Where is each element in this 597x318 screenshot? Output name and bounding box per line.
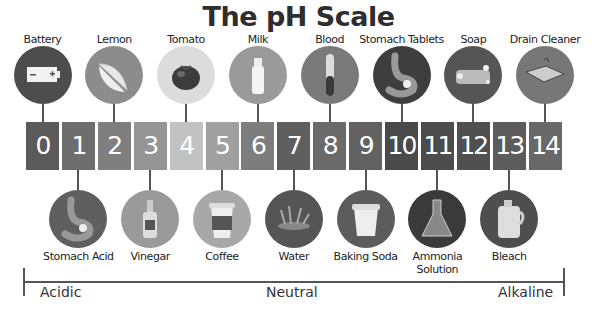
axis-label-neutral: Neutral bbox=[266, 284, 318, 300]
ph-level-13: 13 bbox=[493, 122, 526, 170]
ph-level-4: 4 bbox=[170, 122, 203, 170]
connector-line bbox=[436, 170, 438, 190]
coffee-cup-icon bbox=[193, 190, 251, 248]
example-label-line2: Solution bbox=[382, 263, 492, 276]
axis-right-tick bbox=[563, 268, 565, 296]
connector-line bbox=[293, 170, 295, 190]
connector-line bbox=[77, 170, 79, 190]
connector-line bbox=[329, 104, 331, 122]
ph-level-5: 5 bbox=[206, 122, 239, 170]
ph-level-11: 11 bbox=[421, 122, 454, 170]
connector-line bbox=[257, 104, 259, 122]
vinegar-bottle-icon bbox=[121, 190, 179, 248]
connector-line bbox=[365, 170, 367, 190]
connector-line bbox=[401, 104, 403, 122]
connector-line bbox=[472, 104, 474, 122]
connector-line bbox=[113, 104, 115, 122]
axis-label-alkaline: Alkaline bbox=[498, 284, 553, 300]
ph-level-9: 9 bbox=[349, 122, 382, 170]
connector-line bbox=[149, 170, 151, 190]
water-splash-icon bbox=[265, 190, 323, 248]
ph-level-2: 2 bbox=[98, 122, 131, 170]
page-title: The pH Scale bbox=[0, 0, 597, 34]
baking-soda-tub-icon bbox=[337, 190, 395, 248]
connector-line bbox=[185, 104, 187, 122]
bleach-jug-icon bbox=[480, 190, 538, 248]
axis-left-tick bbox=[23, 268, 25, 296]
ph-level-10: 10 bbox=[385, 122, 418, 170]
axis-label-acidic: Acidic bbox=[40, 284, 81, 300]
ph-level-8: 8 bbox=[313, 122, 346, 170]
example-label: Bleach bbox=[454, 250, 564, 263]
ph-level-0: 0 bbox=[26, 122, 59, 170]
connector-line bbox=[544, 104, 546, 122]
battery-icon bbox=[14, 46, 72, 104]
lemon-icon bbox=[85, 46, 143, 104]
ph-level-14: 14 bbox=[529, 122, 562, 170]
ph-level-12: 12 bbox=[457, 122, 490, 170]
stomach-icon bbox=[49, 190, 107, 248]
flask-icon bbox=[408, 190, 466, 248]
ph-level-6: 6 bbox=[241, 122, 274, 170]
ph-level-1: 1 bbox=[62, 122, 95, 170]
connector-line bbox=[221, 170, 223, 190]
connector-line bbox=[42, 104, 44, 122]
milk-bottle-icon bbox=[229, 46, 287, 104]
stomach-icon bbox=[373, 46, 431, 104]
soap-icon bbox=[444, 46, 502, 104]
ph-level-7: 7 bbox=[277, 122, 310, 170]
connector-line bbox=[508, 170, 510, 190]
example-label: Drain Cleaner bbox=[490, 33, 597, 46]
tomato-icon bbox=[157, 46, 215, 104]
test-tube-icon bbox=[301, 46, 359, 104]
scale-axis-line bbox=[24, 281, 564, 283]
sink-icon bbox=[516, 46, 574, 104]
ph-level-3: 3 bbox=[134, 122, 167, 170]
